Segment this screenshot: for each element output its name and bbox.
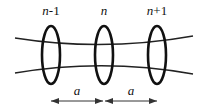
- ring-n-plus-1: [148, 26, 166, 84]
- label-n-minus-1: n-1: [42, 3, 59, 18]
- label-n: n: [101, 3, 108, 18]
- ring-n-minus-1: [42, 26, 60, 84]
- ring-n: [95, 26, 113, 84]
- spacing-label-left: a: [74, 83, 81, 98]
- spacing-label-right: a: [128, 83, 135, 98]
- label-n-plus-1: n+1: [147, 3, 167, 18]
- waveguide-diagram: n-1 n n+1 a a: [0, 0, 207, 112]
